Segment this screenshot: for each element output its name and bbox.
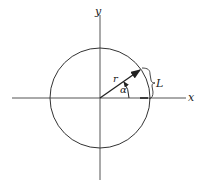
- radius-label: r: [113, 73, 119, 84]
- arc-length-label: L: [155, 77, 163, 90]
- angle-label: α: [120, 84, 127, 95]
- x-axis-label: x: [188, 91, 195, 104]
- y-axis-label: y: [94, 5, 102, 18]
- arc-length-brace: [142, 68, 155, 99]
- polar-diagram: y x r α L: [0, 0, 200, 188]
